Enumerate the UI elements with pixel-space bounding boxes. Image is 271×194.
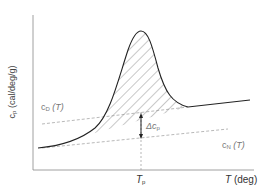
native-baseline-label: cN (T) (222, 140, 245, 150)
native-baseline (42, 129, 228, 148)
dsc-diagram (0, 0, 271, 194)
delta-cp-label: Δcp (146, 121, 160, 131)
x-axis-label: T (deg) (225, 174, 257, 185)
denatured-baseline-label: cD (T) (41, 102, 64, 112)
delta-cp-arrow (139, 113, 143, 139)
y-axis-label: cp (cal/deg/g) (7, 66, 17, 119)
tp-label: Tp (136, 174, 145, 185)
hatched-area (38, 25, 200, 148)
